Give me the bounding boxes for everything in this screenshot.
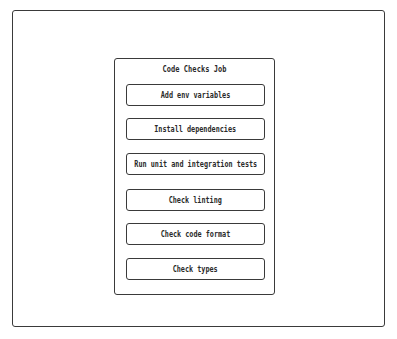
step-label: Add env variables [161, 90, 231, 100]
step-label: Run unit and integration tests [134, 159, 257, 169]
step-add-env-variables: Add env variables [126, 84, 265, 106]
step-label: Check code format [161, 229, 231, 239]
step-check-linting: Check linting [126, 189, 265, 211]
clipped-caption-fragment [0, 0, 397, 3]
step-check-code-format: Check code format [126, 223, 265, 245]
job-title: Code Checks Job [128, 64, 260, 74]
step-run-tests: Run unit and integration tests [126, 153, 265, 175]
step-label: Install dependencies [155, 124, 237, 134]
step-label: Check types [173, 264, 218, 274]
step-check-types: Check types [126, 258, 265, 280]
step-install-dependencies: Install dependencies [126, 118, 265, 140]
step-label: Check linting [169, 195, 222, 205]
